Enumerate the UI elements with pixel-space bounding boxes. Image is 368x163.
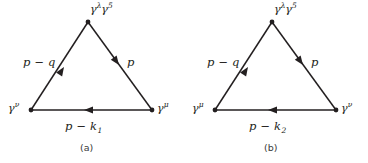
apex-lambda-a: λ — [97, 1, 102, 10]
left-vertex-index-b: μ — [199, 100, 204, 109]
bottom-edge-momentum-label-b: p − k2 — [249, 121, 286, 133]
panel-caption-a: (a) — [80, 142, 93, 153]
bottom-momentum-subscript-a: 1 — [98, 126, 103, 135]
right-vertex-index-b: ν — [348, 100, 353, 109]
apex-gamma-a: γ — [90, 3, 97, 16]
vertex-apex-b — [270, 20, 275, 25]
apex-gamma-b: γ — [274, 3, 281, 16]
diagram-panel-b: γλγ5 γμ γν p − q p p − k2 (b) — [184, 0, 368, 163]
bottom-momentum-text-a: p − k — [65, 119, 97, 133]
right-vertex-gamma-a: γ — [157, 102, 164, 115]
left-vertex-label-b: γμ — [192, 103, 203, 114]
left-vertex-index-a: ν — [15, 100, 20, 109]
apex-lambda-b: λ — [281, 1, 286, 10]
right-vertex-gamma-b: γ — [341, 102, 348, 115]
vertex-apex-a — [86, 20, 91, 25]
apex-vertex-label-a: γλγ5 — [90, 4, 113, 15]
apex-vertex-label-b: γλγ5 — [274, 4, 297, 15]
bottom-momentum-text-b: p − k — [249, 119, 281, 133]
bottom-edge-momentum-label-a: p − k1 — [65, 121, 102, 133]
right-vertex-label-a: γμ — [157, 103, 168, 114]
triangle-graphic-b — [184, 0, 368, 163]
vertex-left-a — [29, 108, 34, 113]
left-vertex-gamma-b: γ — [192, 102, 199, 115]
right-edge-momentum-label-b: p — [311, 57, 319, 69]
apex-five-a: 5 — [108, 1, 113, 10]
arrowhead-left-a — [56, 65, 67, 76]
left-edge-momentum-label-a: p − q — [23, 57, 56, 69]
triangle-diagram-figure: γλγ5 γν γμ p − q p p − k1 (a) — [0, 0, 368, 163]
diagram-panel-a: γλγ5 γν γμ p − q p p − k1 (a) — [0, 0, 184, 163]
right-vertex-label-b: γν — [341, 103, 352, 114]
fermion-line-right-a — [88, 22, 152, 110]
bottom-momentum-subscript-b: 2 — [282, 126, 287, 135]
apex-five-b: 5 — [292, 1, 297, 10]
left-vertex-gamma-a: γ — [8, 102, 15, 115]
left-vertex-label-a: γν — [8, 103, 19, 114]
left-edge-momentum-label-b: p − q — [207, 57, 240, 69]
triangle-graphic-a — [0, 0, 184, 163]
arrowhead-left-b — [240, 65, 251, 76]
apex-gamma2-b: γ — [285, 3, 292, 16]
arrowhead-bottom-a — [84, 106, 93, 113]
vertex-right-b — [334, 108, 339, 113]
vertex-right-a — [150, 108, 155, 113]
apex-gamma2-a: γ — [101, 3, 108, 16]
fermion-line-right-b — [272, 22, 336, 110]
right-vertex-index-a: μ — [164, 100, 169, 109]
vertex-left-b — [213, 108, 218, 113]
arrowhead-bottom-b — [268, 106, 277, 113]
right-edge-momentum-label-a: p — [127, 57, 135, 69]
panel-caption-b: (b) — [264, 142, 277, 153]
